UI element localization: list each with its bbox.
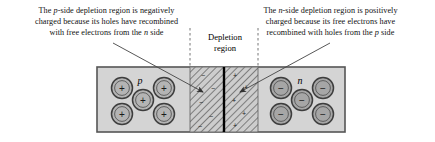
p-region-label: p [137,75,143,86]
svg-text:+: + [119,109,125,120]
n-region-label: n [298,75,303,86]
svg-text:−: − [299,95,305,106]
n-carrier: − [271,78,292,99]
svg-text:+: + [161,109,167,120]
p-carrier: + [154,78,175,99]
svg-text:−: − [278,109,284,120]
svg-text:−: − [278,83,284,94]
svg-text:−: − [320,109,326,120]
n-carrier: − [313,104,334,125]
svg-text:+: + [233,72,237,79]
svg-text:−: − [198,123,202,130]
n-carrier: − [292,90,313,111]
svg-text:−: − [199,99,203,106]
svg-text:+: + [140,95,146,106]
svg-text:−: − [320,83,326,94]
svg-text:+: + [119,83,125,94]
svg-text:−: − [201,72,205,79]
svg-text:+: + [242,110,246,117]
p-carrier: + [133,90,154,111]
pn-junction-figure: The p-side depletion region is negativel… [0,0,435,142]
diagram-canvas: p n + + + + [0,0,435,142]
svg-text:+: + [232,97,236,104]
svg-text:−: − [211,85,215,92]
svg-text:−: − [209,113,213,120]
n-carrier: − [313,78,334,99]
p-carrier: + [154,104,175,125]
n-carrier: − [271,104,292,125]
svg-text:+: + [233,122,237,129]
svg-text:+: + [161,83,167,94]
p-carrier: + [112,104,133,125]
p-carrier: + [112,78,133,99]
